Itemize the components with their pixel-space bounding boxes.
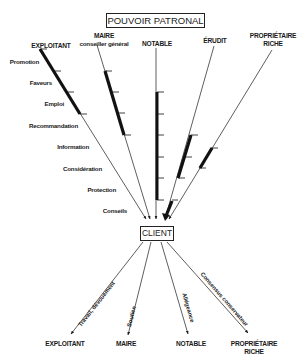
resource-protection: Protection bbox=[87, 186, 116, 193]
resource-promotion: Promotion bbox=[10, 58, 39, 65]
notable-line bbox=[156, 48, 164, 219]
bottom-actor-exploitant: EXPLOITANT bbox=[45, 340, 84, 348]
bottom-actor-label: EXPLOITANT bbox=[45, 340, 84, 347]
top-actor-sublabel: RICHE bbox=[250, 40, 297, 48]
resource-consideration: Considération bbox=[63, 165, 102, 172]
bottom-actor-notable: NOTABLE bbox=[176, 340, 206, 348]
erudit-line bbox=[162, 46, 214, 221]
proprietaire-line bbox=[169, 50, 272, 219]
resource-recommandation: Recommandation bbox=[29, 122, 78, 129]
bottom-actor-sublabel: RICHE bbox=[231, 348, 278, 356]
bottom-actor-label: PROPRIÉTAIRE bbox=[231, 340, 278, 348]
bottom-arrows bbox=[71, 242, 248, 335]
bottom-actor-maire: MAIRE bbox=[116, 340, 136, 348]
patronage-diagram bbox=[0, 0, 307, 363]
resource-emploi: Emploi bbox=[45, 100, 64, 107]
resource-faveurs: Faveurs bbox=[30, 79, 52, 86]
resource-conseils: Conseils bbox=[103, 207, 127, 214]
resource-information: Information bbox=[57, 143, 89, 150]
top-actor-sublabel: conseiller général bbox=[79, 40, 128, 48]
top-actor-erudit: ÉRUDIT bbox=[203, 37, 226, 45]
top-actor-proprietaire: PROPRIÉTAIRE RICHE bbox=[250, 32, 297, 47]
bottom-actor-label: NOTABLE bbox=[176, 340, 206, 347]
top-actor-label: PROPRIÉTAIRE bbox=[250, 32, 297, 40]
top-actor-label: ÉRUDIT bbox=[203, 37, 226, 44]
top-actor-maire: MAIRE conseiller général bbox=[79, 32, 128, 47]
exploitant-line bbox=[40, 49, 146, 219]
bottom-actor-proprietaire: PROPRIÉTAIRE RICHE bbox=[231, 340, 278, 355]
top-actor-label: MAIRE bbox=[79, 32, 128, 40]
top-actor-exploitant: EXPLOITANT bbox=[31, 42, 70, 50]
bottom-actor-label: MAIRE bbox=[116, 340, 136, 347]
client-box: CLIENT bbox=[140, 226, 174, 241]
top-actor-notable: NOTABLE bbox=[142, 40, 172, 48]
top-actor-label: NOTABLE bbox=[142, 40, 172, 47]
top-actor-label: EXPLOITANT bbox=[31, 42, 70, 49]
title-box: POUVOIR PATRONAL bbox=[106, 13, 205, 28]
